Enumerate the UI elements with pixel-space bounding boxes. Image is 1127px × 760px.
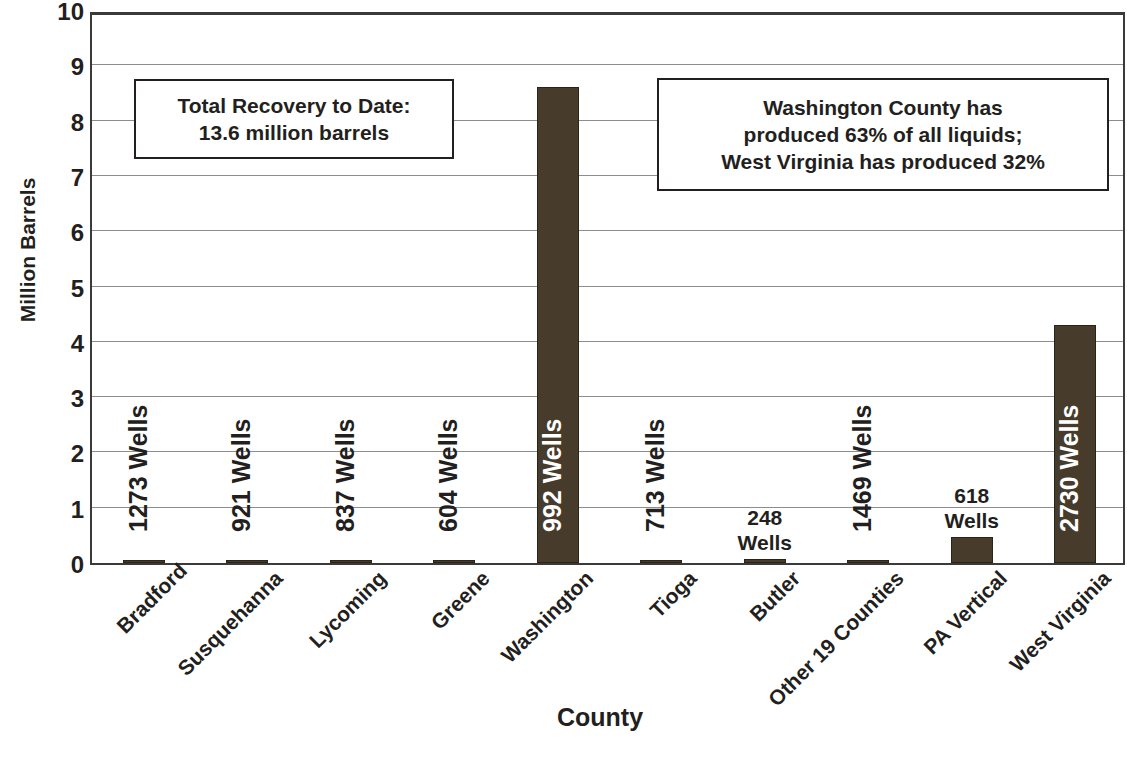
annotation-production-share: Washington County has produced 63% of al… — [657, 78, 1109, 191]
y-axis-tick-4: 4 — [38, 332, 84, 356]
y-axis-tick-7: 7 — [38, 166, 84, 190]
y-axis-tick-6: 6 — [38, 221, 84, 245]
bar-well-count-label: 992 Wells — [540, 418, 565, 532]
x-axis-category-labels: BradfordSusquehannaLycomingGreeneWashing… — [90, 567, 1125, 697]
annotation-total-recovery: Total Recovery to Date: 13.6 million bar… — [134, 79, 454, 159]
bar[interactable] — [951, 537, 993, 563]
bar-well-count-label: 837 Wells — [333, 418, 358, 532]
y-axis-tick-8: 8 — [38, 111, 84, 135]
annotation-total-line-1: Total Recovery to Date: — [178, 92, 411, 119]
bar-well-count-line-2: Wells — [738, 531, 792, 555]
bar[interactable] — [123, 560, 165, 563]
annotation-total-line-2: 13.6 million barrels — [199, 119, 389, 146]
annotation-share-line-2: produced 63% of all liquids; — [744, 121, 1023, 148]
x-axis-label-bradford: Bradford — [113, 567, 183, 637]
x-axis-title: County — [450, 703, 750, 732]
bar[interactable] — [226, 560, 268, 563]
bar[interactable] — [744, 559, 786, 563]
bar-well-count-label: 2730 Wells — [1057, 405, 1082, 532]
bar-well-count-line-2: Wells — [945, 509, 999, 533]
y-axis-tick-labels: 109876543210 — [0, 0, 84, 580]
bar[interactable] — [433, 560, 475, 563]
bar-well-count-label: 713 Wells — [643, 418, 668, 532]
bar-well-count-label: 1469 Wells — [850, 405, 875, 532]
bar-well-count-line-1: 248 — [738, 506, 792, 530]
y-axis-tick-3: 3 — [38, 387, 84, 411]
bar-well-count-label: 618Wells — [945, 484, 999, 533]
bar[interactable] — [847, 560, 889, 563]
y-axis-tick-9: 9 — [38, 55, 84, 79]
y-axis-tick-5: 5 — [38, 277, 84, 301]
bar[interactable] — [640, 560, 682, 563]
y-axis-tick-1: 1 — [38, 498, 84, 522]
bar-well-count-label: 921 Wells — [229, 418, 254, 532]
annotation-share-line-1: Washington County has — [763, 94, 1003, 121]
bar-well-count-label: 604 Wells — [436, 418, 461, 532]
bar[interactable] — [330, 560, 372, 563]
bar-well-count-line-1: 618 — [945, 484, 999, 508]
y-axis-tick-0: 0 — [38, 553, 84, 577]
annotation-share-line-3: West Virginia has produced 32% — [721, 148, 1045, 175]
bar-well-count-label: 1273 Wells — [126, 405, 151, 532]
bar-chart: Million Barrels 109876543210 1273 Wells9… — [0, 0, 1127, 760]
bar-group: 992 Wells — [506, 15, 610, 563]
bar-well-count-label: 248Wells — [738, 506, 792, 555]
y-axis-tick-10: 10 — [38, 0, 84, 24]
y-axis-tick-2: 2 — [38, 442, 84, 466]
